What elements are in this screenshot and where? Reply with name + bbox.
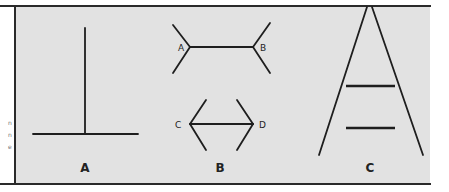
illusions-figure: n n e A A B C D: [0, 0, 449, 192]
endpoint-label-b: B: [260, 43, 266, 53]
margin-fragment: n: [8, 119, 12, 126]
panel-label-c: C: [366, 161, 375, 175]
endpoint-label-d: D: [259, 120, 266, 130]
endpoint-label-c: C: [175, 120, 181, 130]
panel-label-a: A: [80, 161, 90, 175]
panel-label-b: B: [215, 161, 224, 175]
endpoint-label-a: A: [178, 43, 185, 53]
left-margin-text: n n e: [8, 119, 12, 150]
panel-background: [15, 7, 430, 184]
margin-fragment: e: [8, 143, 12, 150]
margin-fragment: n: [8, 131, 12, 138]
